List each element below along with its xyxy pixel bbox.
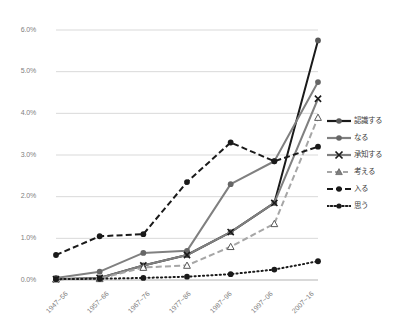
- y-tick-label: 0.0%: [2, 276, 36, 283]
- legend-item-3[interactable]: 考える: [327, 163, 395, 180]
- data-point: [97, 276, 103, 282]
- data-point: [228, 271, 234, 277]
- data-point: [184, 248, 190, 254]
- series-line: [56, 40, 318, 279]
- data-point: [53, 276, 59, 282]
- data-point: [53, 276, 59, 282]
- x-tick-label: 1947~56: [22, 290, 69, 336]
- series-line: [56, 82, 318, 278]
- legend-item-5[interactable]: 思う: [327, 197, 395, 214]
- y-tick-label: 3.0%: [2, 151, 36, 158]
- data-point: [184, 262, 191, 268]
- data-point: [271, 200, 277, 206]
- x-tick-label: 1977~86: [145, 290, 192, 336]
- legend-item-2[interactable]: 承知する: [327, 146, 395, 163]
- series-0: [53, 38, 321, 283]
- data-point: [140, 275, 146, 281]
- y-tick-label: 2.0%: [2, 192, 36, 199]
- legend-label: 承知する: [354, 151, 382, 159]
- data-point: [184, 274, 190, 280]
- legend-swatch-icon: [327, 149, 351, 161]
- data-point: [184, 179, 190, 185]
- data-point: [140, 262, 146, 268]
- series-5: [53, 258, 321, 282]
- legend-label: 考える: [354, 168, 375, 176]
- data-point: [228, 181, 234, 187]
- legend: 認識する なる 承知する 考える 入る: [327, 112, 395, 214]
- data-point: [228, 229, 234, 235]
- series-4: [53, 140, 321, 258]
- line-chart: 6.0% 5.0% 4.0% 3.0% 2.0% 1.0% 0.0% 1947~…: [0, 0, 396, 336]
- x-tick-label: 1957~66: [63, 290, 110, 336]
- legend-swatch-icon: [327, 132, 351, 144]
- data-point: [315, 96, 321, 102]
- legend-item-1[interactable]: なる: [327, 129, 395, 146]
- legend-item-4[interactable]: 入る: [327, 180, 395, 197]
- series-line: [56, 261, 318, 279]
- data-point: [53, 276, 60, 282]
- data-point: [315, 38, 321, 44]
- data-point: [271, 158, 277, 164]
- x-tick-label: 1967~76: [104, 290, 151, 336]
- data-point: [184, 252, 190, 258]
- data-point: [53, 276, 59, 282]
- legend-swatch-icon: [327, 166, 351, 178]
- series-1: [53, 79, 321, 281]
- data-point: [97, 275, 103, 281]
- y-tick-label: 1.0%: [2, 234, 36, 241]
- legend-item-0[interactable]: 認識する: [327, 112, 395, 129]
- data-point: [271, 158, 277, 164]
- data-point: [184, 252, 190, 258]
- data-point: [315, 79, 321, 85]
- legend-label: 思う: [354, 202, 368, 210]
- data-point: [97, 233, 103, 239]
- series-3: [53, 114, 322, 282]
- legend-swatch-icon: [327, 183, 351, 195]
- data-point: [315, 114, 322, 120]
- data-point: [140, 231, 146, 237]
- data-point: [140, 264, 147, 270]
- legend-label: 認識する: [354, 117, 382, 125]
- data-point: [53, 275, 59, 281]
- legend-swatch-icon: [327, 115, 351, 127]
- data-point: [227, 243, 234, 249]
- y-tick-label: 6.0%: [2, 26, 36, 33]
- gridlines: [56, 30, 318, 280]
- y-tick-label: 4.0%: [2, 109, 36, 116]
- data-point: [271, 220, 278, 226]
- series-line: [56, 143, 318, 256]
- data-point: [140, 250, 146, 256]
- data-point: [315, 258, 321, 264]
- data-point: [140, 263, 146, 269]
- data-point: [228, 229, 234, 235]
- data-point: [315, 144, 321, 150]
- data-point: [96, 275, 103, 281]
- x-tick-label: 2007~16: [268, 290, 315, 336]
- data-point: [271, 267, 277, 273]
- legend-label: 入る: [354, 185, 368, 193]
- x-tick-label: 1997~06: [227, 290, 274, 336]
- series-line: [56, 99, 318, 279]
- series-2: [53, 96, 321, 283]
- data-point: [271, 200, 277, 206]
- legend-label: なる: [354, 134, 368, 142]
- x-tick-label: 1987~96: [186, 290, 233, 336]
- legend-swatch-icon: [327, 200, 351, 212]
- data-point: [97, 269, 103, 275]
- series-line: [56, 118, 318, 280]
- data-point: [97, 275, 103, 281]
- y-tick-label: 5.0%: [2, 67, 36, 74]
- data-point: [228, 140, 234, 146]
- data-point: [53, 252, 59, 258]
- series-layer: [53, 38, 322, 283]
